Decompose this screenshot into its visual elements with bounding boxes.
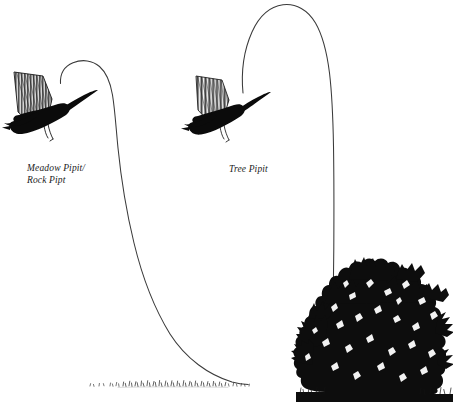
illustration-canvas: [0, 0, 453, 402]
grass-tuft-line: [90, 381, 249, 388]
label-tree-pipit: Tree Pipit: [229, 163, 268, 175]
label-meadow-rock-pipit: Meadow Pipit/ Rock Pipt: [27, 162, 85, 186]
tree-pipit-bird: [181, 74, 271, 142]
bird-left-bill: [2, 126, 10, 130]
meadow-rock-pipit-bird: [2, 70, 98, 141]
tree-pipit-flight-path: [242, 5, 334, 301]
bird-right-legs: [220, 125, 229, 142]
bird-left-legs: [44, 124, 53, 141]
bird-left-tail: [62, 90, 98, 115]
pipit-song-flight-figure: Meadow Pipit/ Rock Pipt Tree Pipit: [0, 0, 453, 402]
bird-right-bill: [181, 127, 189, 131]
bird-right-tail: [238, 92, 271, 116]
bush: [291, 257, 453, 402]
